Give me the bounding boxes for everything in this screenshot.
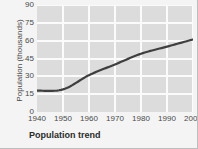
x-axis-tick-label: 1980 (132, 114, 150, 124)
y-axis-tick-label: 60 (16, 37, 34, 45)
y-axis-tick-label: 75 (16, 19, 34, 27)
x-axis-tick-label: 1960 (80, 114, 98, 124)
plot-area (37, 5, 193, 112)
x-axis-tick-label: 1940 (28, 114, 46, 124)
y-axis-tick-label: 15 (16, 90, 34, 98)
x-axis-tick-label: 1950 (54, 114, 72, 124)
x-axis-tick-labels: 1940195019601970198019902000 (0, 114, 198, 126)
chart-figure: Population (thousands) 0153045607590 194… (0, 0, 198, 149)
y-axis-tick-labels: 0153045607590 (16, 0, 34, 149)
data-series-line (37, 5, 193, 112)
y-axis-tick-label: 90 (16, 1, 34, 9)
y-axis-tick-label: 45 (16, 55, 34, 63)
x-axis-tick-label: 1970 (106, 114, 124, 124)
x-axis-tick-label: 1990 (158, 114, 176, 124)
chart-title: Population trend (29, 130, 101, 140)
x-axis-tick-label: 2000 (184, 114, 198, 124)
y-axis-tick-label: 30 (16, 72, 34, 80)
